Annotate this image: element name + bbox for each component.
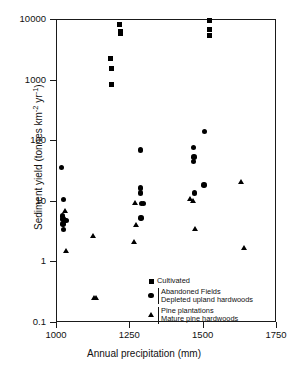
x-tick-label-1250: 1250 xyxy=(99,330,159,340)
data-point-circle-1-11 xyxy=(141,201,146,206)
data-point-triangle-2-5 xyxy=(132,200,138,205)
data-point-square-0-8 xyxy=(207,33,212,38)
y-axis-title: Sediment yield (tonnes km-2 yr-1) xyxy=(30,32,44,282)
y-axis-title-pre: Sediment yield (tonnes km xyxy=(33,112,44,230)
data-point-triangle-2-10 xyxy=(192,226,198,231)
data-point-circle-1-6 xyxy=(63,218,68,223)
data-point-circle-1-5 xyxy=(61,227,66,232)
data-point-circle-1-18 xyxy=(202,129,207,134)
y-tick-label-100: 100 xyxy=(0,135,46,145)
x-tick-label-1750: 1750 xyxy=(246,330,288,340)
x-axis-title: Annual precipitation (mm) xyxy=(0,348,288,359)
circle-glyph xyxy=(148,293,153,298)
y-tick-label-10: 10 xyxy=(0,196,46,206)
x-tick-1000 xyxy=(56,322,57,328)
y-tick-label-10000: 10000 xyxy=(0,14,46,24)
x-tick-label-1500: 1500 xyxy=(173,330,233,340)
data-point-triangle-2-1 xyxy=(63,248,69,253)
data-point-circle-1-17 xyxy=(201,182,206,187)
data-point-square-0-3 xyxy=(117,22,122,27)
x-tick-label-1000: 1000 xyxy=(26,330,86,340)
data-point-square-0-6 xyxy=(207,18,212,23)
legend-marker-square-icon xyxy=(146,277,157,285)
legend-row-2: Pine plantationsMature pine hardwoods xyxy=(146,307,272,324)
legend-label-line-0-0: Cultivated xyxy=(157,277,272,285)
data-point-circle-1-12 xyxy=(138,215,143,220)
scatter-plot-figure: Sediment yield (tonnes km-2 yr-1) 0.1110… xyxy=(0,0,288,376)
y-axis-title-mid: yr xyxy=(33,94,44,105)
data-point-triangle-2-12 xyxy=(241,245,247,250)
y-axis-title-sup-1: -2 xyxy=(31,105,40,112)
data-point-circle-1-13 xyxy=(191,145,196,150)
data-point-triangle-2-7 xyxy=(131,239,137,244)
data-point-square-0-5 xyxy=(118,31,123,36)
data-point-triangle-2-4 xyxy=(90,233,96,238)
data-point-square-0-7 xyxy=(207,27,212,32)
data-point-triangle-2-3 xyxy=(93,295,99,300)
data-point-square-0-2 xyxy=(108,56,113,61)
data-point-circle-1-9 xyxy=(138,190,143,195)
data-point-circle-1-1 xyxy=(61,197,66,202)
y-tick-label-0.1: 0.1 xyxy=(0,317,46,327)
data-point-circle-1-7 xyxy=(138,147,143,152)
data-point-triangle-2-0 xyxy=(62,208,68,213)
data-point-circle-1-0 xyxy=(59,165,64,170)
legend-row-0: Cultivated xyxy=(146,277,272,285)
y-axis-title-post: ) xyxy=(33,84,44,87)
data-point-triangle-2-11 xyxy=(238,179,244,184)
x-tick-1750 xyxy=(276,322,277,328)
data-point-square-0-1 xyxy=(109,66,114,71)
data-point-circle-1-15 xyxy=(191,159,196,164)
legend-label-line-2-1: Mature pine hardwoods xyxy=(161,315,272,323)
legend-label-line-1-1: Depleted upland hardwoods xyxy=(161,296,272,304)
legend-row-1: Abandoned FieldsDepleted upland hardwood… xyxy=(146,288,272,305)
data-point-triangle-2-9 xyxy=(190,198,196,203)
data-point-square-0-0 xyxy=(109,82,114,87)
triangle-glyph xyxy=(148,312,154,317)
square-glyph xyxy=(149,279,154,284)
data-point-triangle-2-6 xyxy=(133,222,139,227)
x-tick-1250 xyxy=(129,322,130,328)
chart-legend: CultivatedAbandoned FieldsDepleted uplan… xyxy=(146,277,272,326)
y-tick-label-1: 1 xyxy=(0,256,46,266)
legend-marker-circle-icon xyxy=(146,288,157,305)
y-axis-title-sup-2: -1 xyxy=(31,88,40,95)
legend-label-2: Pine plantationsMature pine hardwoods xyxy=(158,307,273,324)
legend-marker-triangle-icon xyxy=(146,307,157,324)
legend-label-0: Cultivated xyxy=(157,277,272,285)
y-tick-label-1000: 1000 xyxy=(0,75,46,85)
legend-label-1: Abandoned FieldsDepleted upland hardwood… xyxy=(158,288,273,305)
data-point-circle-1-16 xyxy=(192,190,197,195)
